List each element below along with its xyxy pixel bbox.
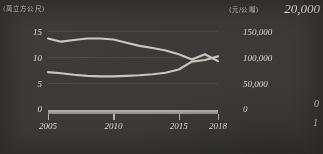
- x-axis-tick-2005: [48, 114, 49, 120]
- x-axis-tick-2018: [218, 114, 219, 120]
- x-axis-tick-2015: [179, 114, 180, 120]
- right-axis-tick-150000: 150,000: [243, 27, 272, 37]
- x-axis-label-2010: 2010: [104, 121, 122, 131]
- x-axis-label-2015: 2015: [170, 121, 188, 131]
- plot-area: [48, 18, 218, 110]
- margin-bleed-one: 1: [313, 117, 318, 128]
- left-axis-tick-0: 0: [14, 104, 42, 114]
- right-axis-tick-100000: 100,000: [243, 53, 272, 63]
- right-axis-tick-0: 0: [243, 104, 248, 114]
- left-axis-tick-10: 10: [14, 53, 42, 63]
- x-axis-label-2018: 2018: [209, 121, 227, 131]
- left-axis-tick-15: 15: [14, 27, 42, 37]
- right-axis-tick-200000: 20,000: [284, 1, 320, 17]
- right-axis-tick-50000: 50,000: [243, 79, 268, 89]
- left-axis-unit-label: (萬立方公尺): [3, 3, 44, 13]
- right-axis-unit-label: (元/公噸): [229, 4, 258, 14]
- chart-svg: [48, 18, 218, 110]
- chart-screenshot: (萬立方公尺) (元/公噸) 20,000 15 10 5 0 150,000 …: [0, 0, 323, 154]
- x-axis-bar: [48, 110, 218, 114]
- left-axis-tick-5: 5: [14, 79, 42, 89]
- x-axis-tick-2010: [113, 114, 114, 120]
- margin-bleed-zero: 0: [314, 98, 319, 109]
- x-axis-label-2005: 2005: [39, 121, 57, 131]
